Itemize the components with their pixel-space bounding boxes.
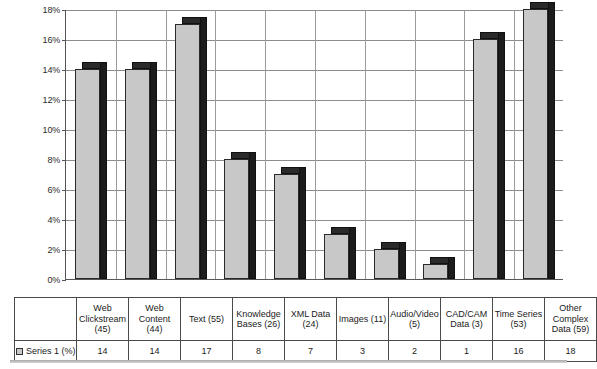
category-separator	[464, 10, 465, 279]
y-axis-tick-mark	[62, 100, 66, 101]
data-table-container: Web Clickstream (45)Web Content (44)Text…	[14, 297, 563, 362]
table-value-cell: 1	[441, 341, 493, 362]
y-axis-tick-label: 8%	[14, 156, 60, 165]
table-header-cell: Knowledge Bases (26)	[233, 298, 285, 341]
category-separator	[116, 10, 117, 279]
table-header-cell: Other Complex Data (59)	[545, 298, 597, 341]
table-value-cell: 7	[285, 341, 337, 362]
bottom-divider	[10, 360, 567, 363]
bar-side-face	[249, 152, 256, 279]
table-header-cell: Audio/Video (5)	[389, 298, 441, 341]
y-axis-tick-label: 6%	[14, 186, 60, 195]
bar-side-face	[548, 2, 555, 279]
y-axis-tick-label: 18%	[14, 6, 60, 15]
y-axis-tick-label: 16%	[14, 36, 60, 45]
y-axis-tick-mark	[62, 130, 66, 131]
y-axis-tick-mark	[62, 40, 66, 41]
series-swatch-icon	[16, 348, 23, 355]
bar-9	[473, 32, 505, 279]
category-separator	[365, 10, 366, 279]
bar-6	[324, 227, 356, 279]
bar-side-face	[399, 242, 406, 279]
y-axis-tick-label: 0%	[14, 276, 60, 285]
table-header-cell: Text (55)	[181, 298, 233, 341]
y-axis-tick-label: 10%	[14, 126, 60, 135]
y-axis-tick-mark	[62, 250, 66, 251]
category-separator	[265, 10, 266, 279]
bar-front-face	[175, 24, 200, 279]
table-value-cell: 14	[77, 341, 129, 362]
table-header-cell: Images (11)	[337, 298, 389, 341]
bar-8	[423, 257, 455, 279]
category-separator	[315, 10, 316, 279]
bar-2	[125, 62, 157, 279]
bar-front-face	[274, 174, 299, 279]
bar-3	[175, 17, 207, 279]
legend-label: Series 1 (%)	[26, 346, 76, 356]
bar-front-face	[473, 39, 498, 279]
y-axis-tick-mark	[62, 280, 66, 281]
y-axis-tick-label: 12%	[14, 96, 60, 105]
bar-front-face	[75, 69, 100, 279]
table-header-row: Web Clickstream (45)Web Content (44)Text…	[15, 298, 597, 341]
table-header-cell: Web Content (44)	[129, 298, 181, 341]
bar-side-face	[299, 167, 306, 279]
y-axis-tick-labels: 18%16%14%12%10%8%6%4%2%0%	[8, 0, 60, 295]
table-value-cell: 8	[233, 341, 285, 362]
bar-7	[374, 242, 406, 279]
table-header-cell: XML Data (24)	[285, 298, 337, 341]
bar-front-face	[324, 234, 349, 279]
bar-front-face	[224, 159, 249, 279]
bar-front-face	[374, 249, 399, 279]
y-axis-tick-mark	[62, 190, 66, 191]
table-value-cell: 2	[389, 341, 441, 362]
table-value-cell: 3	[337, 341, 389, 362]
y-axis-tick-mark	[62, 220, 66, 221]
table-corner-blank	[15, 298, 77, 341]
category-separator	[215, 10, 216, 279]
category-separator	[415, 10, 416, 279]
chart-plot-area: 18%16%14%12%10%8%6%4%2%0%	[0, 0, 575, 295]
bar-front-face	[125, 69, 150, 279]
category-separator	[514, 10, 515, 279]
table-header-cell: Web Clickstream (45)	[77, 298, 129, 341]
table-value-row: Series 1 (%) 141417873211618	[15, 341, 597, 362]
bar-side-face	[498, 32, 505, 279]
bar-side-face	[150, 62, 157, 279]
bar-1	[75, 62, 107, 279]
bar-5	[274, 167, 306, 279]
bar-front-face	[423, 264, 448, 279]
bar-side-face	[100, 62, 107, 279]
bar-4	[224, 152, 256, 279]
table-value-cell: 16	[493, 341, 545, 362]
table-value-cell: 18	[545, 341, 597, 362]
bar-10	[523, 2, 555, 279]
data-table: Web Clickstream (45)Web Content (44)Text…	[14, 297, 597, 362]
bar-side-face	[200, 17, 207, 279]
table-header-cell: CAD/CAM Data (3)	[441, 298, 493, 341]
y-axis-tick-mark	[62, 70, 66, 71]
table-value-cell: 17	[181, 341, 233, 362]
bar-side-face	[349, 227, 356, 279]
table-value-cell: 14	[129, 341, 181, 362]
bar-front-face	[523, 9, 548, 279]
bar-side-face	[448, 257, 455, 279]
y-axis-tick-mark	[62, 160, 66, 161]
y-axis-tick-mark	[62, 10, 66, 11]
category-separator	[166, 10, 167, 279]
plot-canvas	[65, 10, 563, 280]
y-axis-tick-label: 2%	[14, 246, 60, 255]
y-axis-tick-label: 4%	[14, 216, 60, 225]
legend-cell: Series 1 (%)	[15, 341, 77, 362]
y-axis-tick-label: 14%	[14, 66, 60, 75]
table-header-cell: Time Series (53)	[493, 298, 545, 341]
